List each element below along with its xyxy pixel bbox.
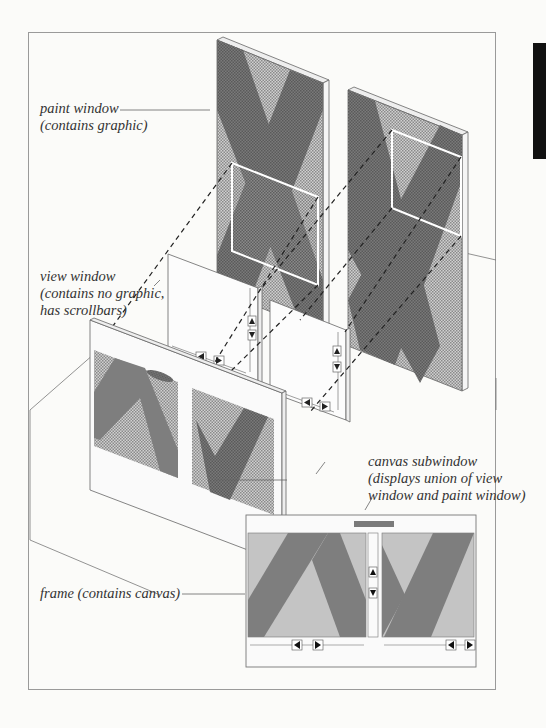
label-line: paint window xyxy=(40,100,148,117)
label-line: has scrollbars) xyxy=(40,302,164,319)
label-line: frame (contains canvas) xyxy=(40,585,180,602)
label-view-window: view window (contains no graphic, has sc… xyxy=(40,268,164,319)
label-paint-window: paint window (contains graphic) xyxy=(40,100,148,134)
label-line: window and paint window) xyxy=(368,487,526,504)
label-line: canvas subwindow xyxy=(368,453,526,470)
label-line: (contains no graphic, xyxy=(40,285,164,302)
label-line: (displays union of view xyxy=(368,470,526,487)
label-line: view window xyxy=(40,268,164,285)
frame-assembled xyxy=(246,515,476,667)
title-bar-handle xyxy=(354,521,394,527)
label-line: (contains graphic) xyxy=(40,117,148,134)
label-frame: frame (contains canvas) xyxy=(40,585,180,602)
label-canvas-subwindow: canvas subwindow (displays union of view… xyxy=(368,453,526,504)
